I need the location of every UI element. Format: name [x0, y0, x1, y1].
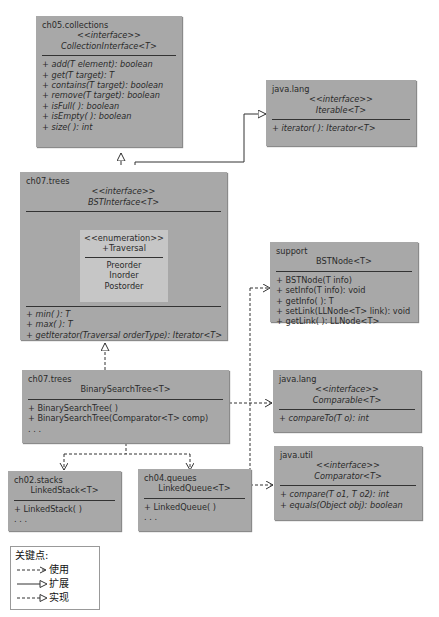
legend-label: 扩展	[49, 577, 69, 591]
operation-ellipsis: . . .	[28, 424, 223, 434]
enum-value: Postorder	[80, 281, 168, 291]
class-name: Comparable<T>	[273, 395, 421, 405]
legend-item-extends: 扩展	[15, 577, 95, 591]
operations-list: + min( ): T + max( ): T + getIterator(Tr…	[20, 309, 228, 344]
divider	[42, 55, 176, 56]
operation: + max( ): T	[26, 319, 222, 329]
enum-stereotype: <<enumeration>>	[80, 230, 168, 243]
package-label: ch04.queues	[138, 469, 251, 483]
legend-item-uses: 使用	[15, 563, 95, 577]
solid-triangle-arrow-icon	[15, 579, 49, 589]
operation: + compareTo(T o): int	[279, 413, 415, 423]
operation: + getInfo( ): T	[276, 296, 412, 306]
operation: + getIterator(Traversal orderType): Iter…	[26, 330, 222, 340]
operation: + get(T target): T	[42, 70, 176, 80]
package-label: support	[270, 242, 418, 256]
collection-interface-box: ch05.collections <<interface>> Collectio…	[36, 16, 182, 147]
operation: + setLink(LLNode<T> link): void	[276, 306, 412, 316]
operation: + LinkedQueue( )	[144, 502, 245, 512]
operations-list: + add(T element): boolean + get(T target…	[36, 59, 182, 136]
stereotype-label: <<interface>>	[36, 30, 182, 40]
divider	[85, 257, 163, 258]
operation: + BinarySearchTree(Comparator<T> comp)	[28, 413, 223, 423]
legend-box: 关键点: 使用 扩展 实现	[10, 546, 100, 610]
divider	[14, 500, 115, 501]
enum-value: Inorder	[80, 270, 168, 280]
legend-item-implements: 实现	[15, 591, 95, 605]
enum-name: +Traversal	[80, 243, 168, 253]
operation: + add(T element): boolean	[42, 59, 176, 69]
stereotype-label: <<interface>>	[274, 460, 422, 470]
operation: + remove(T target): boolean	[42, 90, 176, 100]
package-label: ch02.stacks	[8, 471, 121, 485]
operations-list: + BinarySearchTree( ) + BinarySearchTree…	[22, 403, 229, 438]
operation: + setInfo(T info): void	[276, 285, 412, 295]
operations-list: + compare(T o1, T o2): int + equals(Obje…	[274, 489, 422, 514]
operation: + getLink( ): LLNode<T>	[276, 316, 412, 326]
package-label: ch07.trees	[20, 172, 227, 186]
operation: + equals(Object obj): boolean	[280, 500, 416, 510]
legend-label: 实现	[49, 591, 69, 605]
class-name: Iterable<T>	[266, 105, 416, 115]
package-label: ch05.collections	[36, 16, 182, 30]
operation: + LinkedStack( )	[14, 504, 115, 514]
operations-list: + BSTNode(T info) + setInfo(T info): voi…	[270, 275, 418, 331]
dashed-triangle-arrow-icon	[15, 593, 49, 603]
stereotype-label: <<interface>>	[20, 186, 227, 196]
uses-stack-queue-connectors	[64, 443, 190, 470]
bstnode-class-box: support BSTNode<T> + BSTNode(T info) + s…	[270, 242, 418, 322]
linked-stack-class-box: ch02.stacks LinkedStack<T> + LinkedStack…	[8, 471, 121, 531]
package-label: ch07.trees	[22, 370, 229, 384]
iterable-interface-box: java.lang <<interface>> Iterable<T> + it…	[266, 80, 416, 146]
divider	[272, 119, 410, 120]
divider	[276, 271, 412, 272]
uses-connectors	[229, 288, 273, 485]
operation: + BinarySearchTree( )	[28, 403, 223, 413]
operations-list: + LinkedStack( ) . . .	[8, 504, 121, 529]
divider	[26, 211, 221, 212]
dashed-open-arrow-icon	[15, 565, 49, 575]
operation-ellipsis: . . .	[14, 514, 115, 524]
class-name: Comparator<T>	[274, 471, 422, 481]
class-name: BinarySearchTree<T>	[22, 384, 229, 394]
operation: + isFull( ): boolean	[42, 101, 176, 111]
legend-title: 关键点:	[15, 549, 95, 563]
package-label: java.lang	[266, 80, 416, 94]
traversal-enum-box: <<enumeration>> +Traversal Preorder Inor…	[80, 230, 168, 302]
divider	[144, 498, 245, 499]
class-name: LinkedStack<T>	[8, 485, 121, 495]
comparable-interface-box: java.lang <<interface>> Comparable<T> + …	[273, 370, 421, 432]
operations-list: + LinkedQueue( ) . . .	[138, 502, 251, 527]
divider	[28, 399, 223, 400]
operation: + size( ): int	[42, 122, 176, 132]
bst-interface-box: ch07.trees <<interface>> BSTInterface<T>…	[20, 172, 227, 340]
class-name: BSTNode<T>	[270, 256, 418, 266]
class-name: CollectionInterface<T>	[36, 41, 182, 51]
stereotype-label: <<interface>>	[273, 384, 421, 394]
linked-queue-class-box: ch04.queues LinkedQueue<T> + LinkedQueue…	[138, 469, 251, 531]
operation: + iterator( ): Iterator<T>	[272, 123, 410, 133]
operation: + isEmpty( ): boolean	[42, 111, 176, 121]
operation: + min( ): T	[26, 309, 222, 319]
operations-list: + compareTo(T o): int	[273, 413, 421, 427]
comparator-interface-box: java.util <<interface>> Comparator<T> + …	[274, 446, 422, 520]
class-name: LinkedQueue<T>	[138, 483, 251, 493]
enum-value: Preorder	[80, 260, 168, 270]
divider	[26, 306, 221, 307]
package-label: java.util	[274, 446, 422, 460]
operation: + compare(T o1, T o2): int	[280, 489, 416, 499]
legend-label: 使用	[49, 563, 69, 577]
class-name: BSTInterface<T>	[20, 197, 227, 207]
operation: + BSTNode(T info)	[276, 275, 412, 285]
operation: + contains(T target): boolean	[42, 80, 176, 90]
operation-ellipsis: . . .	[144, 512, 245, 522]
binary-search-tree-class-box: ch07.trees BinarySearchTree<T> + BinaryS…	[22, 370, 229, 443]
package-label: java.lang	[273, 370, 421, 384]
operations-list: + iterator( ): Iterator<T>	[266, 123, 416, 137]
divider	[279, 409, 415, 410]
stereotype-label: <<interface>>	[266, 94, 416, 104]
divider	[280, 485, 416, 486]
